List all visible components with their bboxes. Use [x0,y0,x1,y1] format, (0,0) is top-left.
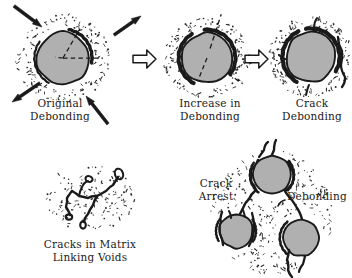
void-dot [345,47,346,48]
void-dot [82,90,83,91]
void-streak [228,176,230,177]
void-dot [256,250,257,251]
void-dot [253,204,254,205]
void-dot [129,186,130,187]
void-dot [296,267,297,268]
void-streak [67,189,69,191]
void-streak [77,26,80,27]
void-dot [241,81,242,82]
void-streak [329,233,331,235]
load-arrow-body [12,82,41,102]
void-dot [103,218,105,220]
void-dot [231,82,233,84]
void-streak [331,27,333,28]
load-arrow [12,82,41,102]
void-streak [17,69,19,71]
void-dot [172,36,173,37]
void-streak [220,90,221,91]
void-dot [61,14,62,15]
void-dot [236,68,238,70]
void-streak [294,193,296,194]
void-streak [190,25,192,28]
void-dot [113,191,114,192]
void-streak [344,56,345,58]
void-streak [339,33,340,34]
void-dot [171,41,172,42]
void-dot [76,17,77,18]
void-dot [56,19,58,21]
void-dot [177,86,178,87]
void-dot [269,51,271,53]
void-streak [193,94,195,96]
void-dot [228,173,229,174]
void-streak [172,53,174,54]
void-dot [74,27,75,28]
flow-arrow-2 [245,50,268,68]
void-dot [289,25,291,27]
void-dot [326,21,327,22]
void-dot [58,101,59,102]
void-dot [338,72,339,73]
void-streak [248,206,250,209]
void-streak [19,58,20,60]
void-dot [238,255,239,256]
void-dot [261,218,262,219]
void-dot [278,48,280,50]
void-dot [37,34,38,35]
void-dot [95,81,96,82]
flow-arrow-outline [245,50,268,68]
void-streak [134,200,135,202]
void-dot [283,151,284,152]
void-dot [227,207,229,209]
particle-body [182,32,232,82]
load-arrow [113,16,141,36]
void-dot [174,50,175,51]
particle [287,32,335,82]
void-dot [263,269,264,270]
void-streak [113,194,116,195]
void-dot [72,89,73,90]
void-streak [281,72,283,74]
void-dot [164,67,165,68]
void-streak [236,205,237,207]
void-dot [274,211,275,212]
void-dot [319,26,321,28]
void-dot [269,222,271,224]
void-dot [212,21,214,23]
void-streak [81,84,83,85]
void-dot [175,39,177,41]
void-dot [121,194,123,196]
void-dot [275,206,277,208]
void-dot [86,195,87,196]
void-dot [332,90,333,91]
void-streak [187,91,188,92]
void-dot [23,48,25,50]
void-dot [205,23,207,25]
void-dot [88,167,90,169]
void-dot [77,203,79,205]
void-dot [327,209,329,211]
crack-branch-lower [84,196,97,222]
void-streak [104,210,105,213]
void-dot [260,221,261,222]
void-dot [85,27,86,28]
void-dot [67,226,69,228]
void-dot [225,85,226,86]
void-dot [95,62,97,64]
void-dot [16,63,17,64]
particle-body [253,156,291,194]
void-dot [182,36,183,37]
void-streak [106,198,108,199]
void-dot [238,41,240,43]
void-streak [273,71,275,72]
void-dot [322,215,323,216]
void-streak [246,167,247,170]
void-dot [125,178,127,180]
void-streak [166,70,167,71]
void-streak [320,189,321,192]
void-dot [163,65,164,66]
void-streak [177,35,179,36]
void-dot [316,188,317,189]
void-dot [319,211,320,212]
void-dot [347,61,349,63]
